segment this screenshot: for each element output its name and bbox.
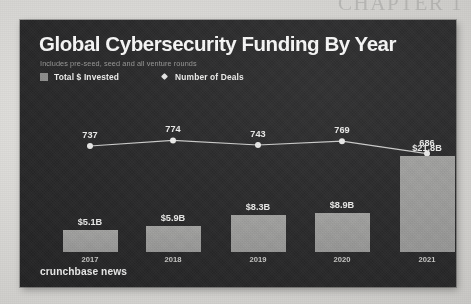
- deals-value-label-2017: 737: [82, 130, 97, 140]
- deals-value-label-2020: 769: [334, 125, 349, 135]
- deals-point-2019: [255, 142, 261, 148]
- bar-2018: [146, 226, 201, 252]
- x-axis-label-2017: 2017: [82, 255, 99, 264]
- deals-value-label-2019: 743: [250, 129, 265, 139]
- bar-2017: [63, 230, 118, 252]
- deals-value-label-2018: 774: [165, 124, 180, 134]
- deals-point-2020: [339, 138, 345, 144]
- deals-value-label-2021: 686: [419, 138, 434, 148]
- x-axis-label-2020: 2020: [334, 255, 351, 264]
- bar-value-label-2017: $5.1B: [78, 217, 103, 227]
- x-axis-label-2018: 2018: [165, 255, 182, 264]
- background-chapter-heading: CHAPTER 1: [338, 0, 463, 16]
- printed-page: CHAPTER 1 Global Cybersecurity Funding B…: [0, 0, 471, 304]
- chart-card: Global Cybersecurity Funding By Year Inc…: [20, 20, 456, 287]
- deals-point-2018: [170, 137, 176, 143]
- chart-plot-area: $5.1B2017$5.9B2018$8.3B2019$8.9B2020$21.…: [20, 20, 456, 287]
- bar-2021: [400, 156, 455, 252]
- chart-source-footer: crunchbase news: [40, 266, 127, 277]
- bar-2019: [231, 215, 286, 252]
- bar-2020: [315, 213, 370, 252]
- deals-point-2017: [87, 143, 93, 149]
- bar-value-label-2020: $8.9B: [330, 200, 355, 210]
- bar-value-label-2019: $8.3B: [246, 202, 271, 212]
- bar-value-label-2018: $5.9B: [161, 213, 186, 223]
- x-axis-label-2021: 2021: [419, 255, 436, 264]
- x-axis-label-2019: 2019: [250, 255, 267, 264]
